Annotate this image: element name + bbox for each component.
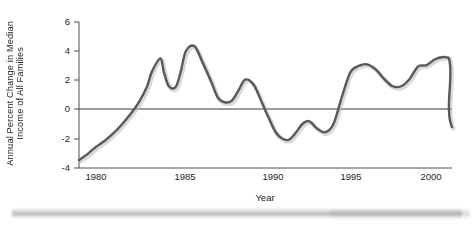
y-tick-label-minus2: -2 xyxy=(62,133,70,144)
x-tick-label-1990: 1990 xyxy=(262,171,283,182)
chart-plot-area: 6 4 2 0 -2 -4 1980 1985 1990 1995 2000 Y… xyxy=(0,0,474,227)
data-line-series-1 xyxy=(79,45,452,160)
x-tick-label-1995: 1995 xyxy=(340,171,361,182)
y-tick-label-minus4: -4 xyxy=(62,162,70,173)
x-axis-title: Year xyxy=(255,192,274,203)
y-tick-label-6: 6 xyxy=(65,16,70,27)
x-tick-label-1985: 1985 xyxy=(174,171,195,182)
x-tick-label-1980: 1980 xyxy=(85,171,106,182)
y-tick-label-2: 2 xyxy=(65,74,70,85)
y-tick-label-4: 4 xyxy=(65,45,70,56)
scan-artifact-band-tail xyxy=(330,208,470,219)
chart-figure: Annual Percent Change in Median Income o… xyxy=(0,0,474,227)
x-tick-label-2000: 2000 xyxy=(420,171,441,182)
y-tick-label-0: 0 xyxy=(65,103,70,114)
